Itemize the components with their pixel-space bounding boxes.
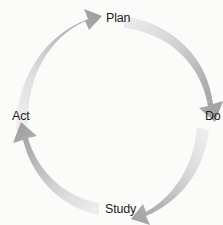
cycle-label-act: Act [12,110,29,123]
cycle-label-do: Do [205,110,221,123]
cycle-label-plan: Plan [106,12,130,25]
pdsa-cycle-diagram: Plan Do Study Act [0,0,223,225]
cycle-label-study: Study [105,203,136,216]
cycle-arrows-graphic [0,0,223,225]
arrow-to-study [131,127,209,225]
arrow-to-act [13,122,99,215]
arrow-to-do [124,16,223,122]
